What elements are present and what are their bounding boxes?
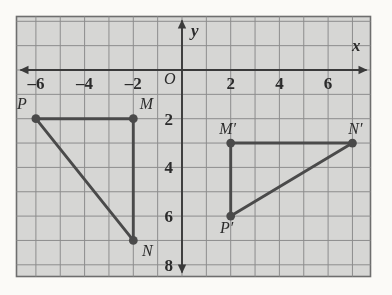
y-tick-label: 4 — [165, 158, 174, 177]
x-tick-label: –6 — [26, 74, 44, 93]
vertex-point — [32, 114, 41, 123]
origin-label: O — [164, 70, 176, 87]
point-label: P — [16, 95, 27, 112]
vertex-point — [129, 236, 138, 245]
vertex-point — [129, 114, 138, 123]
x-tick-label: 2 — [226, 74, 235, 93]
x-tick-label: 4 — [275, 74, 284, 93]
x-tick-label: –4 — [75, 74, 94, 93]
y-axis-label: y — [189, 21, 199, 40]
vertex-point — [226, 139, 235, 148]
y-tick-label: 6 — [165, 207, 174, 226]
x-tick-label: –2 — [124, 74, 142, 93]
point-label: P′ — [219, 219, 234, 236]
point-label: N — [141, 242, 154, 259]
point-label: M′ — [218, 120, 236, 137]
x-axis-label: x — [351, 36, 361, 55]
point-label: N′ — [347, 120, 363, 137]
point-label: M — [139, 95, 155, 112]
y-tick-label: 2 — [165, 110, 174, 129]
x-tick-label: 6 — [324, 74, 333, 93]
grid-plate — [17, 17, 371, 277]
coordinate-grid-figure: –6–4–22462468 PMNM′N′P′ x y O — [0, 0, 392, 295]
vertex-point — [348, 139, 357, 148]
y-tick-label: 8 — [165, 256, 174, 275]
